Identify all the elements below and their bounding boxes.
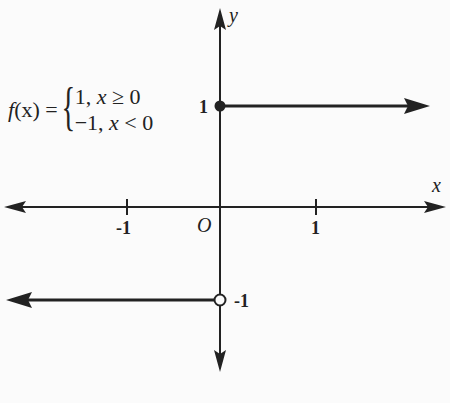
case-1-cond: ≥ 0 (112, 84, 141, 109)
tick-label-x-neg1: -1 (116, 218, 131, 238)
y-axis-label: y (227, 4, 238, 27)
case-2-value: −1, (75, 110, 104, 135)
formula-lhs: f(x) = (8, 97, 58, 123)
case-2: −1, x < 0 (75, 110, 154, 136)
case-1-value: 1, (75, 84, 92, 109)
y-axis (214, 8, 226, 372)
series-positive (215, 98, 431, 114)
closed-point-icon (215, 101, 226, 112)
formula-cases: 1, x ≥ 0 −1, x < 0 (75, 84, 154, 136)
left-brace-icon: { (61, 81, 75, 133)
case-2-var: x (109, 110, 119, 135)
x-axis-label: x (431, 174, 441, 196)
case-1-var: x (97, 84, 107, 109)
function-definition: f(x) = { 1, x ≥ 0 −1, x < 0 (8, 84, 153, 136)
tick-label-y-1: 1 (199, 97, 208, 117)
open-point-icon (215, 295, 226, 306)
case-1: 1, x ≥ 0 (75, 84, 154, 110)
x-axis (4, 201, 446, 213)
tick-label-x-1: 1 (311, 218, 320, 238)
case-2-cond: < 0 (124, 110, 153, 135)
origin-label: O (197, 214, 211, 236)
step-function-graph: y x O -1 1 1 -1 (0, 0, 450, 403)
formula-arg: (x) = (14, 97, 58, 122)
tick-label-y-neg1: -1 (234, 291, 249, 311)
series-negative (6, 292, 226, 308)
